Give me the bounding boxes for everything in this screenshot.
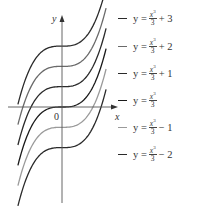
legend-item: y = x33 + 2 (118, 36, 172, 56)
legend-prefix: y = (133, 68, 147, 79)
exponent: 3 (153, 145, 156, 150)
exponent: 3 (153, 118, 156, 123)
legend-label: y = x33 − 1 (133, 118, 172, 136)
exponent: 3 (153, 37, 156, 42)
fraction: x33 (149, 37, 157, 55)
fraction: x33 (149, 64, 157, 82)
legend-prefix: y = (133, 95, 147, 106)
fraction: x33 (149, 145, 157, 163)
legend-prefix: y = (133, 13, 147, 24)
denominator: 3 (151, 155, 155, 163)
legend-swatch (118, 18, 127, 19)
denominator: 3 (151, 101, 155, 109)
fraction: x33 (149, 118, 157, 136)
denominator: 3 (151, 19, 155, 27)
legend-item: y = x33 − 2 (118, 144, 172, 164)
legend-swatch (118, 100, 127, 101)
x-axis-arrow-icon (111, 105, 118, 110)
plot-area: x y 0 (0, 0, 204, 211)
legend-item: y = x33 + 3 (118, 8, 172, 28)
y-axis-label: y (51, 13, 57, 24)
legend-suffix: − 1 (159, 122, 173, 133)
legend-suffix: + 3 (159, 13, 173, 24)
legend-label: y = x33 − 2 (133, 145, 172, 163)
legend-label: y = x33 + 1 (133, 64, 172, 82)
exponent: 3 (153, 9, 156, 14)
legend-label: y = x33 (133, 91, 159, 109)
legend-item: y = x33 + 1 (118, 63, 172, 83)
denominator: 3 (151, 128, 155, 136)
legend-suffix: + 2 (159, 41, 173, 52)
denominator: 3 (151, 74, 155, 82)
exponent: 3 (153, 91, 156, 96)
legend-prefix: y = (133, 41, 147, 52)
legend-swatch (118, 154, 127, 155)
denominator: 3 (151, 47, 155, 55)
legend-prefix: y = (133, 122, 147, 133)
legend-swatch (118, 127, 127, 128)
legend-swatch (118, 46, 127, 47)
y-axis-arrow-icon (60, 15, 65, 22)
legend-suffix: + 1 (159, 68, 173, 79)
legend-swatch (118, 73, 127, 74)
legend-item: y = x33 (118, 90, 159, 110)
exponent: 3 (153, 64, 156, 69)
legend-prefix: y = (133, 149, 147, 160)
origin-label: 0 (54, 111, 59, 122)
fraction: x33 (149, 9, 157, 27)
legend-label: y = x33 + 3 (133, 9, 172, 27)
legend-label: y = x33 + 2 (133, 37, 172, 55)
legend-suffix: − 2 (159, 149, 173, 160)
legend-item: y = x33 − 1 (118, 117, 172, 137)
fraction: x33 (149, 91, 157, 109)
